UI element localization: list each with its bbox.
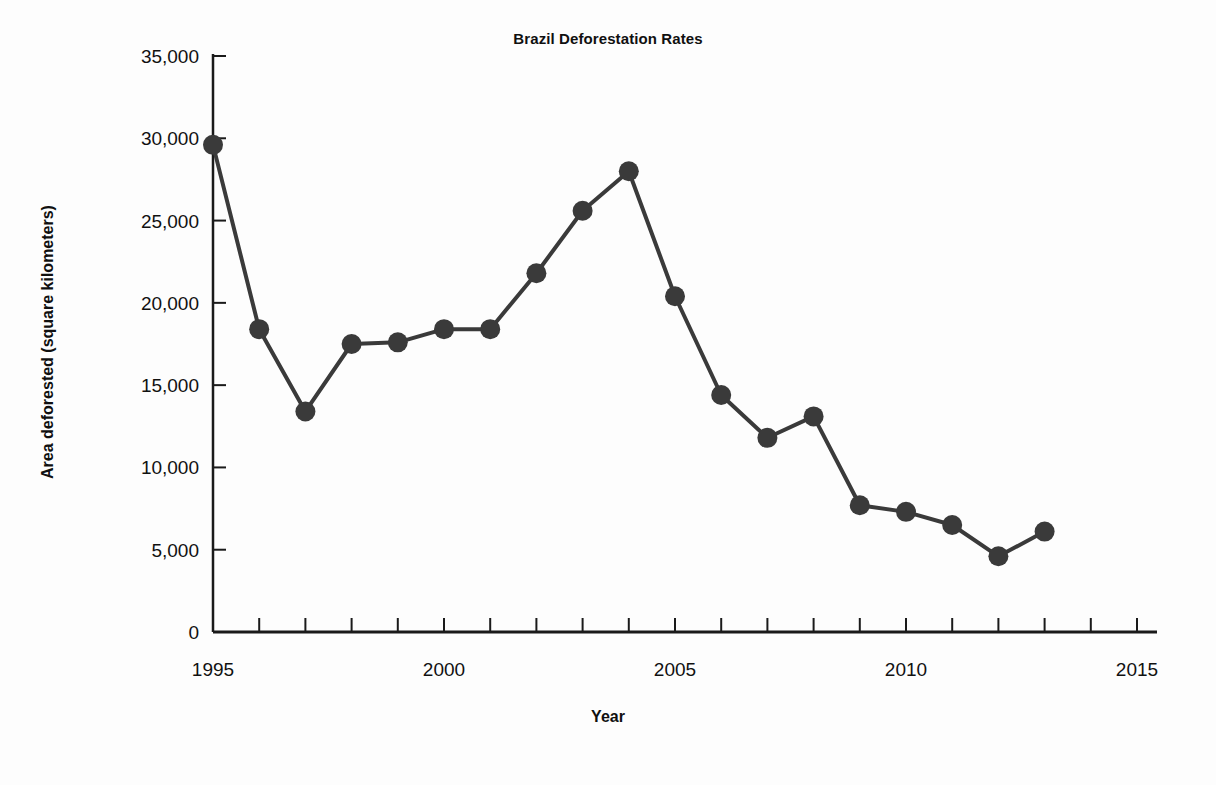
data-line <box>213 145 1045 556</box>
y-tick-label-group: 05,00010,00015,00020,00025,00030,00035,0… <box>141 46 199 643</box>
data-point <box>480 319 500 339</box>
y-axis-tick-group <box>213 56 226 550</box>
data-point <box>203 135 223 155</box>
data-point <box>850 495 870 515</box>
data-point <box>1035 522 1055 542</box>
y-tick-label: 15,000 <box>141 375 199 396</box>
data-line-group <box>213 145 1045 556</box>
data-point <box>896 502 916 522</box>
data-point <box>665 286 685 306</box>
data-point <box>619 161 639 181</box>
data-point-group <box>203 135 1055 566</box>
data-point <box>342 334 362 354</box>
x-axis-tick-group <box>259 618 1137 632</box>
y-tick-label: 5,000 <box>151 540 199 561</box>
data-point <box>711 385 731 405</box>
data-point <box>988 546 1008 566</box>
data-point <box>434 319 454 339</box>
y-tick-label: 0 <box>188 622 199 643</box>
y-tick-label: 10,000 <box>141 457 199 478</box>
data-point <box>573 201 593 221</box>
data-point <box>804 406 824 426</box>
y-tick-label: 20,000 <box>141 293 199 314</box>
data-point <box>295 401 315 421</box>
data-point <box>526 263 546 283</box>
x-tick-label: 2000 <box>423 659 465 680</box>
x-tick-label-group: 19952000200520102015 <box>192 659 1158 680</box>
data-point <box>942 515 962 535</box>
y-tick-label: 25,000 <box>141 211 199 232</box>
x-tick-label: 2010 <box>885 659 927 680</box>
chart-figure: Brazil Deforestation Rates Area deforest… <box>0 0 1216 785</box>
data-point <box>249 319 269 339</box>
data-point <box>388 332 408 352</box>
line-chart-plot: 05,00010,00015,00020,00025,00030,00035,0… <box>0 0 1216 785</box>
y-tick-label: 30,000 <box>141 128 199 149</box>
x-tick-label: 2005 <box>654 659 696 680</box>
x-tick-label: 2015 <box>1116 659 1158 680</box>
data-point <box>757 428 777 448</box>
x-tick-label: 1995 <box>192 659 234 680</box>
y-tick-label: 35,000 <box>141 46 199 67</box>
